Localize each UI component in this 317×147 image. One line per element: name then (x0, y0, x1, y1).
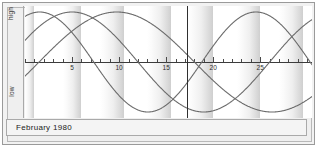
y-axis-label-high-text: high (8, 7, 15, 20)
axis-label-divider (23, 6, 24, 118)
biorhythm-chart-window: high low 510152025 February 1980 (0, 0, 317, 147)
biorhythm-curves (25, 6, 312, 118)
month-caption-strip: February 1980 (6, 119, 307, 136)
biorhythm-curve-emotional (25, 12, 312, 112)
today-marker-line (187, 6, 188, 118)
month-caption-label: February 1980 (7, 123, 72, 132)
y-axis-label-low: low (0, 88, 22, 95)
y-axis-label-low-text: low (7, 86, 14, 96)
y-axis-label-high: high (0, 10, 22, 17)
plot-area: 510152025 (25, 6, 312, 118)
